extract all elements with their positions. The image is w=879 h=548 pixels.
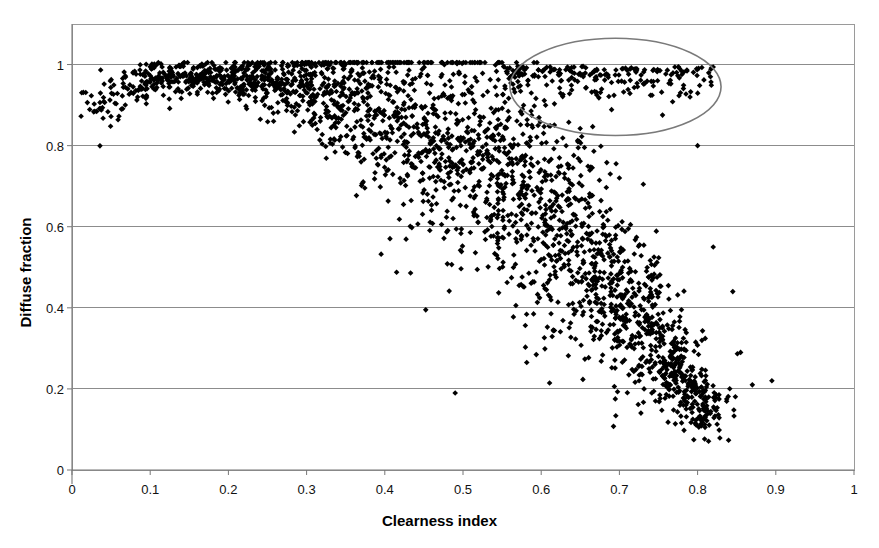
x-axis-title: Clearness index	[0, 512, 879, 529]
x-tick-label: 0.1	[141, 482, 159, 497]
x-tick-label: 0.9	[767, 482, 785, 497]
scatter-chart-figure: Clearness index Diffuse fraction 00.10.2…	[0, 0, 879, 548]
x-tick-label: 0.7	[610, 482, 628, 497]
x-tick-label: 0.6	[532, 482, 550, 497]
x-tick-label: 0.5	[454, 482, 472, 497]
y-tick-label: 1	[22, 57, 64, 72]
y-tick-label: 0.4	[22, 300, 64, 315]
y-tick-label: 0.8	[22, 138, 64, 153]
x-tick-label: 0.2	[219, 482, 237, 497]
annotation-ellipse	[510, 38, 721, 135]
y-tick-label: 0	[22, 463, 64, 478]
x-tick-label: 0.8	[689, 482, 707, 497]
x-tick-label: 0.3	[298, 482, 316, 497]
y-tick-label: 0.6	[22, 219, 64, 234]
x-tick-label: 0	[68, 482, 75, 497]
plot-canvas	[0, 0, 879, 548]
x-axis	[67, 24, 854, 484]
y-tick-label: 0.2	[22, 381, 64, 396]
data-points	[78, 60, 774, 444]
x-tick-label: 1	[850, 482, 857, 497]
y-axis-title: Diffuse fraction	[17, 193, 34, 353]
x-tick-label: 0.4	[376, 482, 394, 497]
gridlines	[72, 65, 854, 470]
